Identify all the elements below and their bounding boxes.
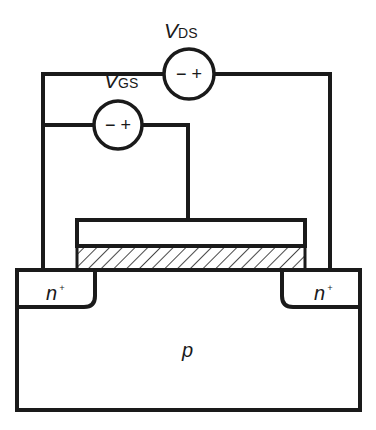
- source-label-text: n: [46, 282, 57, 304]
- mosfet-diagram: − + VDS − + VGS n+ n+ p: [0, 0, 376, 430]
- vgs-source: − +: [94, 101, 142, 149]
- drain-superscript: +: [327, 283, 332, 293]
- substrate-label: p: [181, 339, 193, 361]
- vgs-wire-right: [142, 125, 188, 220]
- gate-electrode: [77, 220, 305, 246]
- vds-label: VDS: [164, 19, 197, 42]
- source-superscript: +: [59, 283, 64, 293]
- drain-label-text: n: [314, 282, 325, 304]
- gate-oxide: [77, 246, 305, 270]
- vds-polarity: − +: [176, 64, 202, 84]
- vgs-subscript: GS: [118, 75, 138, 91]
- vgs-polarity: − +: [105, 115, 131, 135]
- vds-source: − +: [164, 49, 214, 99]
- vds-subscript: DS: [178, 25, 197, 41]
